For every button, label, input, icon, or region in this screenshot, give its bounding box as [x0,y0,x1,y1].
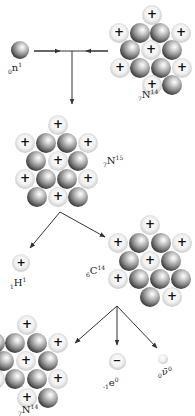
neutron-icon [129,233,149,253]
neutron-icon [161,251,181,271]
proton-icon [48,115,68,135]
proton-icon [12,254,30,272]
proton-icon [110,58,130,78]
neutron-icon [129,269,149,289]
neutron-icon [38,388,58,408]
reaction-diagram: 7N147N156C147N140n11H1-1e00ν̄0 Carbon-14… [0,0,195,416]
neutron-icon [5,333,25,353]
nucleus-label-C14: 6C14 [86,265,105,278]
proton-icon [15,133,35,153]
particle-label-neutron-in: 0n1 [8,62,22,75]
proton-icon [162,287,182,307]
neutron-icon [36,133,56,153]
antineutrino-icon [158,354,168,364]
proton-icon [48,151,68,171]
neutron-icon [11,41,29,59]
neutron-icon [150,269,170,289]
proton-icon [140,251,160,271]
neutron-icon [36,169,56,189]
neutron-icon [151,233,171,253]
proton-icon [140,215,160,235]
particle-label-antineutrino: 0ν̄0 [158,366,172,379]
neutron-icon [140,287,160,307]
neutron-icon [68,187,88,207]
to-n14-arrow [75,306,117,343]
particle-label-hydrogen: 1H1 [10,277,26,290]
neutron-icon [5,369,25,389]
nucleus-label-N14-top: 7N14 [138,89,158,102]
proton-icon [17,315,37,335]
proton-icon [108,233,128,253]
proton-icon [78,133,98,153]
neutron-icon [68,151,88,171]
proton-icon [48,187,68,207]
proton-icon [15,169,35,189]
neutron-icon [57,133,77,153]
proton-icon [172,233,192,253]
proton-icon [141,40,161,60]
neutron-icon [171,269,191,289]
neutron-icon [162,75,182,95]
neutron-icon [27,333,47,353]
particle-label-electron: -1e0 [103,377,119,390]
to-c14-arrow [60,212,105,237]
neutron-icon [38,351,58,371]
neutron-icon [27,369,47,389]
proton-icon [142,5,162,25]
to-antineutrino-arrow [117,306,157,348]
proton-icon [108,269,128,289]
neutron-icon [27,187,47,207]
proton-icon [16,351,36,371]
nucleus-label-N14-bottom: 7N14 [18,404,38,416]
nucleus-label-N15: 7N15 [103,155,123,168]
neutron-icon [26,151,46,171]
neutron-icon [119,251,139,271]
neutron-icon [162,40,182,60]
proton-icon [48,333,68,353]
to-hydrogen-arrow [30,212,60,248]
neutron-icon [57,169,77,189]
neutron-icon [120,40,140,60]
electron-icon [109,353,126,370]
proton-icon [78,169,98,189]
proton-icon [48,369,68,389]
